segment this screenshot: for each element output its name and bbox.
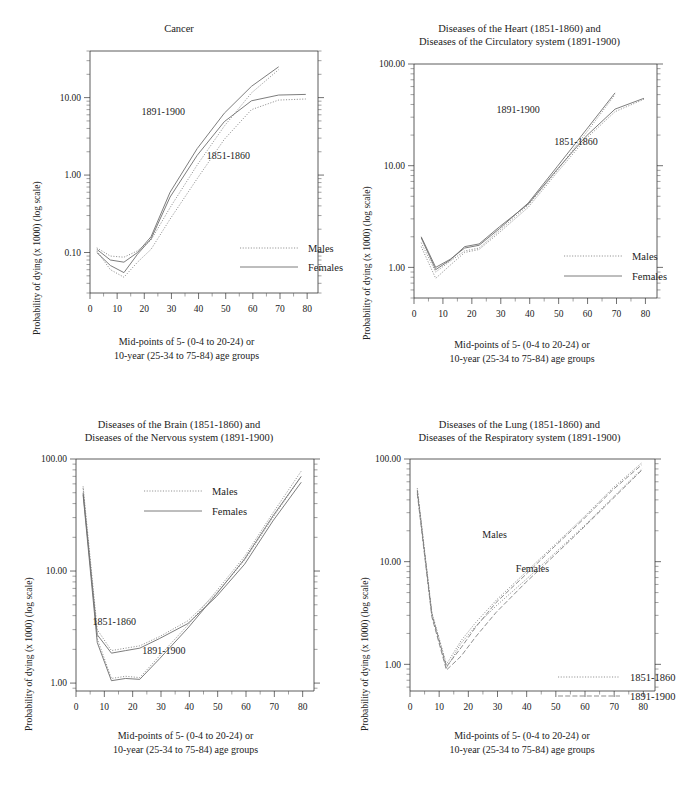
plot-area-wrapper: Probability of dying (x 1000) (log scale… [14, 39, 344, 339]
x-tick-label: 20 [464, 702, 474, 712]
chart-title-line-2: Diseases of the Nervous system (1891-190… [14, 431, 344, 444]
legend-label-1: Females [632, 271, 667, 282]
chart-panel-brain-nervous: Diseases of the Brain (1851-1860) and Di… [14, 418, 344, 788]
plot-area-wrapper: Probability of dying (x 1000) (log scale… [352, 447, 687, 735]
x-axis-label-line-2: 10-year (25-34 to 75-84) age groups [49, 349, 324, 363]
y-tick-label: 100.00 [375, 454, 401, 464]
x-axis-label-line-2: 10-year (25-34 to 75-84) age groups [47, 743, 324, 757]
x-tick-label: 10 [112, 304, 122, 314]
x-axis-label-line-2: 10-year (25-34 to 75-84) age groups [382, 352, 662, 366]
chart-title-line-2: Diseases of the Respiratory system (1891… [352, 431, 687, 444]
x-axis-label-line-1: Mid-points of 5- (0-4 to 20-24) or [47, 729, 324, 743]
annotation-0: 1891-1900 [496, 104, 539, 115]
chart-title: Cancer [14, 22, 344, 35]
annotation-1: 1851-1860 [554, 136, 597, 147]
x-tick-label: 40 [194, 304, 204, 314]
y-tick-label: 1.00 [64, 170, 81, 180]
x-tick-label: 10 [438, 309, 448, 319]
annotation-1: 1891-1900 [142, 645, 185, 656]
y-tick-label: 10.00 [46, 566, 68, 576]
x-axis-label-line-1: Mid-points of 5- (0-4 to 20-24) or [382, 338, 662, 352]
legend-label-1: Females [308, 262, 343, 273]
y-tick-label: 0.10 [64, 248, 81, 258]
annotation-1: Females [516, 563, 549, 574]
chart-title-line-2: Diseases of the Circulatory system (1891… [352, 35, 687, 48]
y-tick-label: 10.00 [60, 93, 82, 103]
x-tick-label: 50 [221, 304, 231, 314]
y-axis-label: Probability of dying (x 1000) (log scale… [362, 186, 372, 340]
y-tick-label: 100.00 [41, 454, 67, 464]
x-tick-label: 30 [493, 702, 503, 712]
x-tick-label: 70 [275, 304, 285, 314]
chart-panel-heart-circulatory: Diseases of the Heart (1851-1860) and Di… [352, 22, 687, 397]
x-axis-label-line-2: 10-year (25-34 to 75-84) age groups [382, 743, 662, 757]
chart-svg[interactable]: 0.101.0010.00010203040506070801891-19001… [14, 39, 344, 339]
series-line-1 [421, 93, 615, 268]
y-tick-label: 10.00 [380, 557, 402, 567]
x-tick-label: 40 [522, 702, 532, 712]
legend-label-0: Males [308, 243, 334, 254]
y-axis-label: Probability of dying (x 1000) (log scale… [32, 181, 42, 335]
chart-title: Diseases of the Brain (1851-1860) and Di… [14, 418, 344, 444]
x-tick-label: 50 [551, 702, 561, 712]
x-tick-label: 30 [167, 304, 177, 314]
x-tick-label: 60 [241, 702, 251, 712]
x-tick-label: 40 [525, 309, 535, 319]
annotation-0: 1891-1900 [142, 106, 185, 117]
x-axis-label: Mid-points of 5- (0-4 to 20-24) or 10-ye… [382, 729, 662, 757]
x-tick-label: 60 [580, 702, 590, 712]
x-tick-label: 30 [496, 309, 506, 319]
x-tick-label: 70 [270, 702, 280, 712]
series-line-1 [97, 67, 279, 262]
series-line-2 [97, 99, 306, 277]
x-tick-label: 0 [412, 309, 417, 319]
chart-title-line-1: Diseases of the Heart (1851-1860) and [352, 22, 687, 35]
y-axis-label: Probability of dying (x 1000) (log scale… [24, 577, 34, 731]
x-tick-label: 50 [213, 702, 223, 712]
x-tick-label: 10 [100, 702, 110, 712]
annotation-0: Males [482, 529, 507, 540]
y-tick-label: 1.00 [384, 660, 401, 670]
chart-title: Diseases of the Heart (1851-1860) and Di… [352, 22, 687, 48]
x-tick-label: 50 [554, 309, 564, 319]
y-tick-label: 100.00 [379, 59, 405, 69]
series-line-0 [421, 95, 615, 272]
x-tick-label: 60 [583, 309, 593, 319]
x-axis-label: Mid-points of 5- (0-4 to 20-24) or 10-ye… [49, 335, 324, 363]
x-axis-label: Mid-points of 5- (0-4 to 20-24) or 10-ye… [382, 338, 662, 366]
x-tick-label: 20 [467, 309, 477, 319]
x-tick-label: 70 [612, 309, 622, 319]
x-tick-label: 60 [248, 304, 258, 314]
x-axis-label-line-1: Mid-points of 5- (0-4 to 20-24) or [382, 729, 662, 743]
chart-title: Diseases of the Lung (1851-1860) and Dis… [352, 418, 687, 444]
x-tick-label: 40 [185, 702, 195, 712]
legend-label-1: Females [212, 506, 247, 517]
y-axis-label: Probability of dying (x 1000) (log scale… [360, 577, 370, 731]
x-tick-label: 80 [639, 702, 649, 712]
chart-svg[interactable]: 1.0010.00100.00010203040506070801851-186… [14, 447, 344, 735]
series-line-2 [83, 471, 301, 678]
x-tick-label: 80 [641, 309, 651, 319]
annotation-0: 1851-1860 [93, 616, 136, 627]
chart-title-line-1: Diseases of the Brain (1851-1860) and [14, 418, 344, 431]
x-axis-label-line-1: Mid-points of 5- (0-4 to 20-24) or [49, 335, 324, 349]
y-tick-label: 1.00 [388, 263, 405, 273]
x-tick-label: 0 [74, 702, 79, 712]
x-tick-label: 0 [88, 304, 93, 314]
legend-label-1: 1891-1900 [630, 691, 676, 702]
x-tick-label: 0 [408, 702, 413, 712]
chart-panel-cancer: Cancer Probability of dying (x 1000) (lo… [14, 22, 344, 397]
legend-label-0: 1851-1860 [630, 672, 676, 683]
x-tick-label: 10 [434, 702, 444, 712]
series-line-1 [83, 482, 301, 653]
x-tick-label: 30 [156, 702, 166, 712]
plot-area-wrapper: Probability of dying (x 1000) (log scale… [14, 447, 344, 735]
y-tick-label: 10.00 [384, 161, 406, 171]
x-tick-label: 80 [302, 304, 312, 314]
series-line-2 [421, 99, 644, 278]
chart-svg[interactable]: 1.0010.00100.0001020304050607080MalesFem… [352, 447, 687, 735]
chart-title-line-1: Cancer [14, 22, 344, 35]
x-tick-label: 20 [128, 702, 138, 712]
x-tick-label: 70 [609, 702, 619, 712]
chart-svg[interactable]: 1.0010.00100.00010203040506070801891-190… [352, 52, 687, 342]
